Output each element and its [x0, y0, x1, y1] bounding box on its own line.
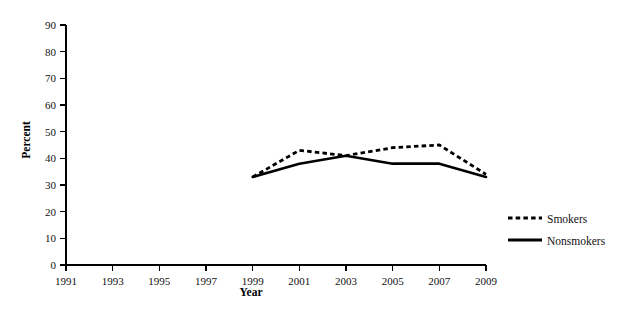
x-tick-label: 1993: [102, 275, 125, 287]
x-tick-label: 1991: [55, 275, 77, 287]
y-tick-label: 20: [45, 206, 57, 218]
y-axis-tick-labels: 0102030405060708090: [45, 19, 57, 271]
y-tick-label: 60: [45, 99, 57, 111]
y-tick-label: 40: [45, 152, 57, 164]
x-axis-ticks: [66, 265, 486, 271]
y-tick-label: 90: [45, 19, 57, 31]
y-tick-label: 30: [45, 179, 57, 191]
line-chart: 0102030405060708090 Percent 199119931995…: [0, 0, 627, 317]
y-axis-title: Percent: [20, 121, 32, 159]
legend-label-nonsmokers: Nonsmokers: [547, 235, 606, 247]
y-tick-label: 0: [51, 259, 57, 271]
series-line-nonsmokers: [253, 156, 486, 177]
legend-label-smokers: Smokers: [547, 213, 588, 225]
y-tick-label: 50: [45, 126, 57, 138]
y-axis-ticks: [60, 25, 66, 265]
y-tick-label: 80: [45, 46, 57, 58]
data-series-group: [253, 145, 486, 177]
series-line-smokers: [253, 145, 486, 177]
x-tick-label: 1997: [195, 275, 218, 287]
x-tick-label: 2005: [382, 275, 405, 287]
chart-canvas: 0102030405060708090 Percent 199119931995…: [0, 0, 627, 317]
x-axis-tick-labels: 1991199319951997199920012003200520072009: [55, 275, 498, 287]
x-tick-label: 2007: [428, 275, 451, 287]
x-tick-label: 2001: [288, 275, 310, 287]
y-tick-label: 70: [45, 72, 57, 84]
x-axis: 1991199319951997199920012003200520072009…: [55, 265, 498, 298]
x-tick-label: 2009: [475, 275, 498, 287]
x-tick-label: 1995: [148, 275, 171, 287]
y-tick-label: 10: [45, 232, 57, 244]
chart-legend: SmokersNonsmokers: [508, 213, 606, 247]
y-axis: 0102030405060708090 Percent: [20, 19, 66, 271]
x-axis-title: Year: [240, 286, 263, 298]
x-tick-label: 2003: [335, 275, 358, 287]
